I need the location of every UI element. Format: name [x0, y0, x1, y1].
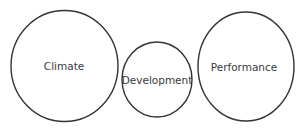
node-development: Development: [122, 42, 193, 117]
performance-label: Performance: [211, 61, 278, 73]
node-performance: Performance: [198, 12, 294, 121]
development-label: Development: [122, 74, 193, 86]
diagram-canvas: Climate Development Performance: [0, 0, 303, 132]
node-climate: Climate: [11, 11, 118, 122]
climate-label: Climate: [44, 60, 84, 72]
